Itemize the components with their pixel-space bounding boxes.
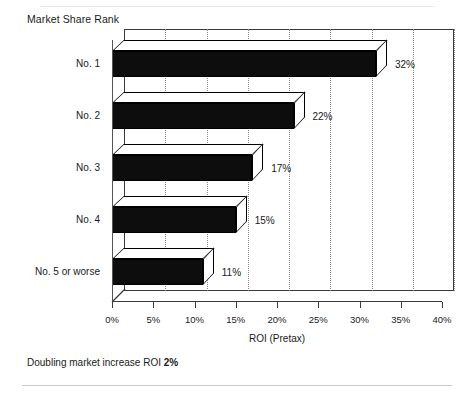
y-axis-title: Market Share Rank [27,13,119,25]
bar [112,103,294,129]
bar-row: 15% [112,207,442,233]
bar-row: 17% [112,155,442,181]
x-tick-label: 10% [185,314,204,325]
bar-value-label: 22% [313,111,333,122]
x-tick-label: 5% [146,314,160,325]
bar-value-label: 17% [271,163,291,174]
bar-row: 32% [112,51,442,77]
bar-row: 11% [112,259,442,285]
x-tick-label: 25% [309,314,328,325]
x-tick-label: 0% [105,314,119,325]
plot-depth-edge [112,287,128,302]
bar-top-face [112,196,248,207]
scan-artifact-line [40,6,435,7]
category-label: No. 5 or worse [35,266,100,277]
bar-top-face [112,248,215,259]
chart-page: Market Share Rank No. 132%No. 222%No. 31… [0,0,475,399]
x-tick-label: 40% [432,314,451,325]
bottom-divider [22,385,452,386]
x-tick [442,302,443,308]
category-label: No. 4 [76,214,100,225]
x-tick [112,302,113,308]
x-tick-label: 30% [350,314,369,325]
x-tick [236,302,237,308]
bar-value-label: 15% [255,215,275,226]
bar-value-label: 11% [222,267,241,278]
category-label: No. 1 [76,58,100,69]
footnote-text: Doubling market increase ROI [27,357,164,368]
x-tick [277,302,278,308]
category-label: No. 3 [76,162,100,173]
y-axis-line [112,40,113,302]
x-tick [195,302,196,308]
x-tick-label: 20% [267,314,286,325]
x-tick-label: 15% [226,314,245,325]
bar-top-face [112,144,264,155]
x-tick [360,302,361,308]
category-label: No. 2 [76,110,100,121]
bar [112,155,252,181]
bar [112,207,236,233]
gridline [454,29,455,291]
x-tick [401,302,402,308]
x-axis-title: ROI (Pretax) [112,333,442,344]
bar-value-label: 32% [395,59,415,70]
bar-top-face [112,92,305,103]
bar-top-face [112,40,388,51]
x-tick [318,302,319,308]
bar-row: 22% [112,103,442,129]
footnote: Doubling market increase ROI 2% [27,357,178,368]
x-tick [153,302,154,308]
bar [112,51,376,77]
x-tick-label: 35% [391,314,410,325]
bar [112,259,203,285]
footnote-emphasis: 2% [164,357,178,368]
plot-area: No. 132%No. 222%No. 317%No. 415%No. 5 or… [112,40,442,302]
